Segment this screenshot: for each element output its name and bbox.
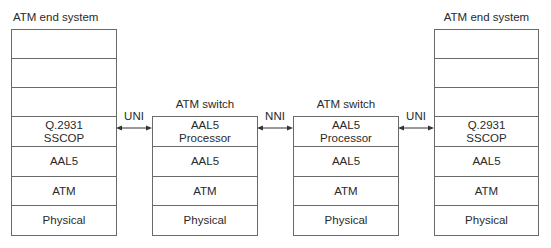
layer-atm: ATM xyxy=(12,177,116,206)
end-system-right-stack: Q.2931 SSCOP AAL5 ATM Physical xyxy=(434,29,539,236)
uni-label: UNI xyxy=(116,110,152,122)
layer-q2931-sscop: Q.2931 SSCOP xyxy=(12,117,116,147)
double-arrow-icon xyxy=(116,124,152,132)
layer-aal5: AAL5 xyxy=(153,147,257,177)
layer-aal5: AAL5 xyxy=(435,147,538,177)
layer-empty xyxy=(12,88,116,117)
layer-aal5-processor: AAL5 Processor xyxy=(153,117,257,147)
layer-physical: Physical xyxy=(435,206,538,235)
layer-physical: Physical xyxy=(12,206,116,235)
layer-empty xyxy=(12,59,116,88)
layer-atm: ATM xyxy=(435,177,538,206)
layer-aal5: AAL5 xyxy=(294,147,398,177)
layer-atm: ATM xyxy=(153,177,257,206)
end-system-left-stack: Q.2931 SSCOP AAL5 ATM Physical xyxy=(11,29,117,236)
layer-empty xyxy=(12,30,116,59)
switch-2-stack: AAL5 Processor AAL5 ATM Physical xyxy=(293,116,399,236)
switch-1-stack: AAL5 Processor AAL5 ATM Physical xyxy=(152,116,258,236)
end-system-left-title: ATM end system xyxy=(11,11,118,23)
switch-1-title: ATM switch xyxy=(152,98,258,110)
layer-aal5-processor: AAL5 Processor xyxy=(294,117,398,147)
double-arrow-icon xyxy=(257,124,293,132)
layer-aal5: AAL5 xyxy=(12,147,116,177)
layer-physical: Physical xyxy=(153,206,257,235)
layer-empty xyxy=(435,59,538,88)
layer-empty xyxy=(435,88,538,117)
layer-empty xyxy=(435,30,538,59)
layer-q2931-sscop: Q.2931 SSCOP xyxy=(435,117,538,147)
double-arrow-icon xyxy=(398,124,434,132)
end-system-right-title: ATM end system xyxy=(434,11,539,23)
uni-label: UNI xyxy=(398,110,434,122)
layer-physical: Physical xyxy=(294,206,398,235)
layer-atm: ATM xyxy=(294,177,398,206)
switch-2-title: ATM switch xyxy=(293,98,399,110)
nni-label: NNI xyxy=(257,110,293,122)
